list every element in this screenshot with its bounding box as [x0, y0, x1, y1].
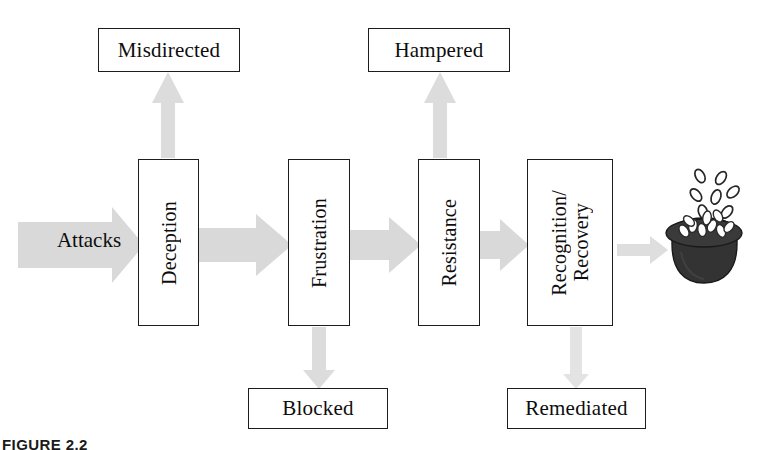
arrow-recognition-to-assets: [617, 236, 668, 264]
arrow-frustration-to-blocked: [303, 327, 335, 389]
stage-box-deception[interactable]: Deception: [138, 159, 199, 326]
stage-box-frustration[interactable]: Frustration: [288, 159, 350, 326]
outcome-box-misdirected[interactable]: Misdirected: [98, 28, 240, 72]
pot-of-coins-icon: [666, 168, 742, 283]
outcome-label-remediated: Remediated: [525, 396, 627, 421]
arrow-recognition-to-remediated: [563, 327, 589, 389]
outcome-box-hampered[interactable]: Hampered: [368, 28, 510, 72]
arrow-resistance-to-hampered: [424, 72, 456, 158]
arrow-frustration-to-resistance: [350, 217, 421, 273]
figure-caption: FIGURE 2.2: [2, 436, 88, 450]
outcome-label-hampered: Hampered: [394, 38, 483, 63]
outcome-box-remediated[interactable]: Remediated: [507, 388, 646, 429]
attacks-label: Attacks: [34, 228, 144, 253]
stage-label-recognition-line2: Recovery: [571, 203, 591, 281]
stage-label-resistance: Resistance: [439, 199, 459, 287]
arrow-deception-to-misdirected: [152, 72, 184, 158]
outcome-box-blocked[interactable]: Blocked: [248, 388, 388, 429]
outcome-label-misdirected: Misdirected: [118, 38, 221, 63]
stage-label-recognition-line1: Recognition/: [549, 190, 569, 296]
stage-label-frustration: Frustration: [309, 198, 329, 288]
figure-container: Attacks Misdirected Hampered Blocked Rem…: [0, 0, 773, 450]
stage-label-deception: Deception: [159, 201, 179, 285]
outcome-label-blocked: Blocked: [282, 396, 353, 421]
stage-box-resistance[interactable]: Resistance: [418, 159, 480, 326]
stage-box-recognition[interactable]: Recognition/ Recovery: [527, 159, 613, 326]
arrow-deception-to-frustration: [199, 214, 292, 276]
arrow-resistance-to-recognition: [480, 219, 529, 271]
